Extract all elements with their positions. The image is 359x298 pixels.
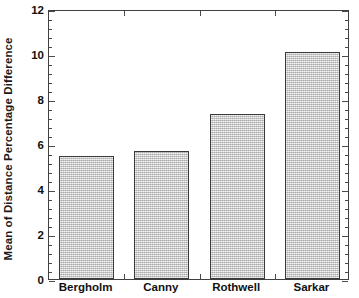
y-axis-minor-tick-right <box>345 272 348 273</box>
y-axis-major-tick <box>49 146 55 147</box>
y-axis-minor-tick-right <box>345 254 348 255</box>
y-axis-major-tick-right <box>342 101 348 102</box>
y-axis-major-tick-right <box>342 11 348 12</box>
bar-canny[interactable] <box>134 151 189 279</box>
y-axis-minor-tick-right <box>345 227 348 228</box>
y-axis-major-tick-right <box>342 146 348 147</box>
y-axis-major-tick-right <box>342 236 348 237</box>
y-axis-minor-tick <box>49 92 52 93</box>
y-axis-minor-tick-right <box>345 164 348 165</box>
y-axis-tick-label: 4 <box>18 185 44 195</box>
y-axis-minor-tick <box>49 263 52 264</box>
y-axis-tick-label: 12 <box>18 5 44 15</box>
y-axis-tick-labels: 024681012 <box>16 0 44 298</box>
y-axis-minor-tick-right <box>345 263 348 264</box>
x-axis-boundary-tick-top <box>124 11 125 16</box>
x-axis-boundary-tick-top <box>200 11 201 16</box>
y-axis-minor-tick-right <box>345 29 348 30</box>
y-axis-minor-tick-right <box>345 83 348 84</box>
y-axis-major-tick <box>49 11 55 12</box>
y-axis-minor-tick <box>49 227 52 228</box>
y-axis-minor-tick <box>49 218 52 219</box>
y-axis-major-tick <box>49 236 55 237</box>
y-axis-minor-tick <box>49 128 52 129</box>
y-axis-major-tick-right <box>342 191 348 192</box>
y-axis-minor-tick <box>49 209 52 210</box>
y-axis-minor-tick <box>49 47 52 48</box>
x-axis-tick-label: Bergholm <box>48 281 123 293</box>
y-axis-minor-tick-right <box>345 92 348 93</box>
y-axis-minor-tick-right <box>345 65 348 66</box>
x-axis-boundary-tick-bottom <box>124 274 125 279</box>
y-axis-tick-label: 6 <box>18 140 44 150</box>
x-axis-boundary-tick-bottom <box>275 274 276 279</box>
y-axis-minor-tick-right <box>345 128 348 129</box>
plot-area <box>48 10 349 280</box>
y-axis-minor-tick <box>49 245 52 246</box>
y-axis-major-tick <box>49 56 55 57</box>
y-axis-minor-tick <box>49 155 52 156</box>
y-axis-tick-label: 2 <box>18 230 44 240</box>
y-axis-minor-tick <box>49 65 52 66</box>
y-axis-minor-tick-right <box>345 110 348 111</box>
bar-bergholm[interactable] <box>59 156 114 279</box>
y-axis-minor-tick-right <box>345 38 348 39</box>
y-axis-minor-tick-right <box>345 74 348 75</box>
y-axis-minor-tick <box>49 20 52 21</box>
y-axis-minor-tick <box>49 200 52 201</box>
y-axis-minor-tick-right <box>345 155 348 156</box>
y-axis-minor-tick-right <box>345 173 348 174</box>
y-axis-minor-tick <box>49 173 52 174</box>
y-axis-minor-tick-right <box>345 218 348 219</box>
y-axis-minor-tick <box>49 110 52 111</box>
y-axis-minor-tick-right <box>345 20 348 21</box>
y-axis-minor-tick <box>49 119 52 120</box>
x-axis-tick-label: Canny <box>123 281 198 293</box>
y-axis-minor-tick-right <box>345 182 348 183</box>
bar-sarkar[interactable] <box>285 52 340 279</box>
y-axis-major-tick <box>49 191 55 192</box>
x-axis-tick-label: Sarkar <box>274 281 349 293</box>
y-axis-minor-tick <box>49 164 52 165</box>
y-axis-tick-label: 0 <box>18 275 44 285</box>
y-axis-major-tick-right <box>342 56 348 57</box>
y-axis-minor-tick <box>49 137 52 138</box>
y-axis-minor-tick <box>49 83 52 84</box>
x-axis-tick-labels: BergholmCannyRothwellSarkar <box>48 281 349 298</box>
y-axis-tick-label: 10 <box>18 50 44 60</box>
y-axis-minor-tick-right <box>345 137 348 138</box>
y-axis-minor-tick <box>49 182 52 183</box>
y-axis-tick-label: 8 <box>18 95 44 105</box>
x-axis-boundary-tick-top <box>275 11 276 16</box>
y-axis-minor-tick-right <box>345 200 348 201</box>
y-axis-major-tick <box>49 101 55 102</box>
x-axis-boundary-tick-bottom <box>200 274 201 279</box>
y-axis-minor-tick <box>49 29 52 30</box>
y-axis-minor-tick <box>49 254 52 255</box>
y-axis-minor-tick-right <box>345 119 348 120</box>
y-axis-minor-tick <box>49 74 52 75</box>
y-axis-minor-tick <box>49 38 52 39</box>
y-axis-title: Mean of Distance Percentage Difference <box>0 0 16 298</box>
bar-chart: Mean of Distance Percentage Difference 0… <box>0 0 359 298</box>
bar-rothwell[interactable] <box>210 114 265 279</box>
y-axis-minor-tick-right <box>345 209 348 210</box>
x-axis-tick-label: Rothwell <box>199 281 274 293</box>
y-axis-minor-tick-right <box>345 245 348 246</box>
y-axis-minor-tick-right <box>345 47 348 48</box>
y-axis-minor-tick <box>49 272 52 273</box>
